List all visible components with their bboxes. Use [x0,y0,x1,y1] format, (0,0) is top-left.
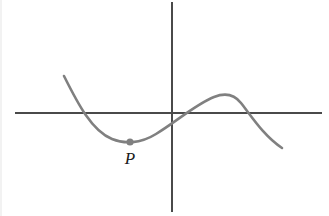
cubic-curve-path [64,76,282,148]
point-P-label: P [124,149,135,168]
point-P-marker [126,138,133,145]
cubic-graph-svg: P [0,0,329,216]
figure-canvas: P [0,0,329,216]
